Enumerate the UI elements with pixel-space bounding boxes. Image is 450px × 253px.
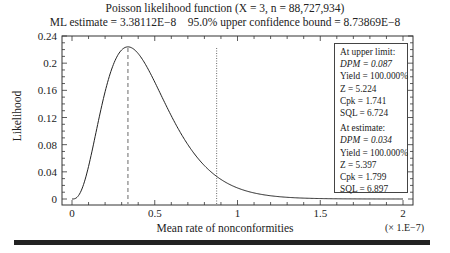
svg-text:0.16: 0.16: [38, 84, 58, 96]
x-axis-label: Mean rate of nonconformities: [0, 222, 450, 234]
upper-dpm: DPM = 0.087: [340, 58, 407, 70]
svg-text:2: 2: [400, 207, 406, 219]
svg-text:1.5: 1.5: [313, 207, 327, 219]
svg-text:0.24: 0.24: [38, 30, 58, 42]
stats-box: At upper limit: DPM = 0.087 Yield = 100.…: [334, 43, 408, 193]
svg-text:0.12: 0.12: [38, 112, 57, 124]
est-sql: SQL = 6.897: [340, 183, 407, 195]
est-dpm: DPM = 0.034: [340, 134, 407, 146]
svg-text:1: 1: [235, 207, 241, 219]
upper-z: Z = 5.224: [340, 83, 407, 95]
upper-heading: At upper limit:: [340, 46, 407, 58]
est-cpk: Cpk = 1.799: [340, 171, 407, 183]
svg-text:0.04: 0.04: [38, 166, 58, 178]
upper-cpk: Cpk = 1.741: [340, 95, 407, 107]
svg-text:0: 0: [52, 193, 58, 205]
y-axis-label: Likelihood: [11, 91, 23, 141]
est-heading: At estimate:: [340, 122, 407, 134]
est-z: Z = 5.397: [340, 159, 407, 171]
bottom-rule: [14, 240, 430, 245]
x-axis-scale: (× 1.E−7): [385, 222, 424, 233]
svg-text:0.08: 0.08: [38, 139, 58, 151]
upper-sql: SQL = 6.724: [340, 107, 407, 119]
svg-text:0.2: 0.2: [43, 57, 57, 69]
svg-text:0: 0: [69, 207, 75, 219]
upper-yield: Yield = 100.000%: [340, 70, 407, 82]
est-yield: Yield = 100.000%: [340, 147, 407, 159]
svg-text:0.5: 0.5: [148, 207, 162, 219]
